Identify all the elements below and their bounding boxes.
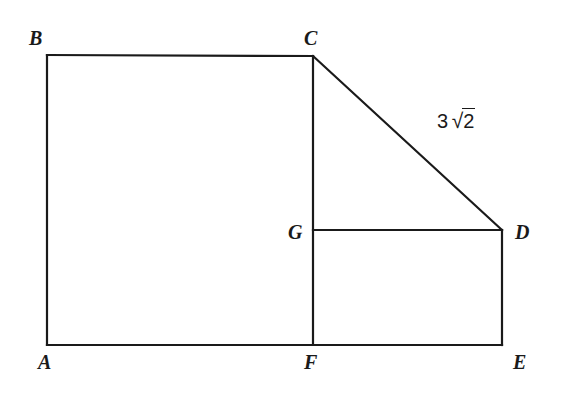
geometry-figure: ABCDEFG3√2 [0, 0, 562, 394]
vertex-label-b: B [29, 28, 42, 48]
vertex-label-g: G [288, 222, 302, 242]
figure-canvas [0, 0, 562, 394]
radical-expression: √2 [452, 108, 476, 132]
vertex-label-c: C [304, 28, 317, 48]
measure-label-cd: 3√2 [437, 108, 475, 132]
vertex-label-f: F [304, 352, 317, 372]
vertex-label-d: D [515, 222, 529, 242]
measure-coefficient: 3 [437, 110, 449, 132]
vertex-label-a: A [38, 352, 51, 372]
vertex-label-e: E [513, 352, 526, 372]
radicand-value: 2 [462, 108, 475, 132]
segment-CD [313, 56, 502, 230]
segment-BC [47, 55, 313, 56]
